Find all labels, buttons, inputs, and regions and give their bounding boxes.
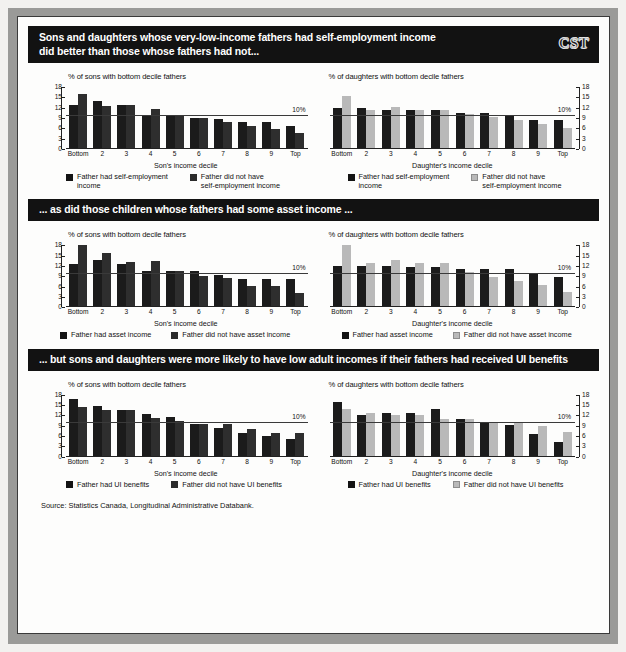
bar-group xyxy=(354,87,379,149)
legend-item: Father had self-employment income xyxy=(66,173,168,190)
x-tick-label: Top xyxy=(283,458,307,465)
bar-group xyxy=(235,245,259,307)
chart-title-sons-1: % of sons with bottom decile fathers xyxy=(68,72,314,81)
x-axis-labels: Bottom23456789Top xyxy=(324,150,600,160)
x-tick-label: 7 xyxy=(477,308,502,315)
x-axis-line xyxy=(330,306,576,307)
bar-group-container xyxy=(330,87,576,149)
y-axis: 0369121518 xyxy=(575,395,599,457)
ten-percent-line xyxy=(330,422,576,423)
bar xyxy=(93,406,102,457)
y-tick-label: 12 xyxy=(582,412,589,418)
x-axis-title: Daughter's income decile xyxy=(324,469,600,478)
x-tick-label: Bottom xyxy=(66,150,90,157)
bar xyxy=(78,245,87,307)
bar-group xyxy=(90,245,114,307)
bar xyxy=(366,263,375,307)
y-tick-mark xyxy=(62,405,65,406)
bar-group xyxy=(114,245,138,307)
y-tick-label: 15 xyxy=(55,402,62,408)
x-axis-labels: Bottom23456789Top xyxy=(324,458,600,468)
bar-group xyxy=(114,87,138,149)
bar xyxy=(382,413,391,457)
bar xyxy=(505,425,514,457)
bar-group xyxy=(354,245,379,307)
bar xyxy=(271,433,280,456)
bar-group xyxy=(187,87,211,149)
bar xyxy=(142,271,151,307)
bar xyxy=(538,426,547,456)
bar xyxy=(563,292,572,307)
x-tick-label: 9 xyxy=(259,308,283,315)
y-tick-label: 15 xyxy=(582,402,589,408)
bar xyxy=(489,422,498,456)
legend-label: Father did not have self-employment inco… xyxy=(201,173,280,190)
bar xyxy=(199,424,208,456)
source-note: Source: Statistics Canada, Longitudinal … xyxy=(41,501,599,510)
bar xyxy=(554,120,563,149)
chart-col-daughters-3: % of daughters with bottom decile father… xyxy=(314,371,600,490)
x-tick-label: 9 xyxy=(259,150,283,157)
plot-sons-1: 036912151810%Bottom23456789TopSon's inco… xyxy=(42,87,314,163)
x-tick-label: Bottom xyxy=(330,308,355,315)
chart-col-daughters-1: % of daughters with bottom decile father… xyxy=(314,63,600,190)
x-tick-label: 7 xyxy=(477,458,502,465)
y-axis: 0369121518 xyxy=(575,87,599,149)
x-tick-label: Bottom xyxy=(330,150,355,157)
chart-title-sons-2: % of sons with bottom decile fathers xyxy=(68,230,314,239)
bar-group xyxy=(235,87,259,149)
bar xyxy=(78,407,87,457)
legend-swatch-icon xyxy=(60,332,67,339)
charts-row-1: % of sons with bottom decile fathers 036… xyxy=(28,63,599,190)
bar-group xyxy=(283,87,307,149)
x-tick-label: 8 xyxy=(501,308,526,315)
cst-logo: CST xyxy=(558,34,590,53)
x-tick-label: 4 xyxy=(138,458,162,465)
bar xyxy=(151,261,160,307)
bar-group xyxy=(403,395,428,457)
bar-group-container xyxy=(66,87,308,149)
bar-group xyxy=(354,395,379,457)
y-tick-mark xyxy=(62,287,65,288)
x-tick-label: 7 xyxy=(211,458,235,465)
bar-group xyxy=(550,87,575,149)
x-tick-label: 9 xyxy=(526,150,551,157)
x-axis-line xyxy=(66,148,308,149)
bar xyxy=(514,281,523,307)
x-tick-label: Top xyxy=(550,458,575,465)
bar xyxy=(382,110,391,149)
bar xyxy=(175,115,184,149)
y-tick-mark xyxy=(576,128,579,129)
y-tick-label: 12 xyxy=(55,105,62,111)
section-banner-1-text: Sons and daughters whose very-low-income… xyxy=(39,31,589,58)
legend-sons-1: Father had self-employment income Father… xyxy=(42,173,314,190)
y-tick-label: 18 xyxy=(55,242,62,248)
bar xyxy=(406,110,415,149)
chart-col-sons-3: % of sons with bottom decile fathers 036… xyxy=(28,371,314,490)
chart-title-sons-3: % of sons with bottom decile fathers xyxy=(68,380,314,389)
x-tick-label: 7 xyxy=(211,308,235,315)
legend-daughters-3: Father had UI benefits Father did not ha… xyxy=(324,481,600,490)
y-tick-mark xyxy=(576,436,579,437)
x-tick-label: 4 xyxy=(403,150,428,157)
bar-group xyxy=(501,87,526,149)
x-tick-label: 5 xyxy=(163,308,187,315)
x-tick-label: 6 xyxy=(452,308,477,315)
legend-label: Father had self-employment income xyxy=(359,173,450,190)
bar xyxy=(529,273,538,307)
x-tick-label: 4 xyxy=(138,308,162,315)
y-tick-mark xyxy=(62,436,65,437)
x-tick-label: 3 xyxy=(379,308,404,315)
bar xyxy=(295,133,304,149)
bar-group xyxy=(187,245,211,307)
x-tick-label: 8 xyxy=(235,458,259,465)
bar-group xyxy=(114,395,138,457)
ten-percent-label: 10% xyxy=(292,106,305,113)
bar xyxy=(529,434,538,456)
x-tick-label: 9 xyxy=(526,308,551,315)
legend-item: Father had asset income xyxy=(60,331,151,340)
bar xyxy=(489,117,498,149)
x-axis-labels: Bottom23456789Top xyxy=(42,308,314,318)
bar xyxy=(166,271,175,307)
legend-label: Father had UI benefits xyxy=(359,481,431,490)
